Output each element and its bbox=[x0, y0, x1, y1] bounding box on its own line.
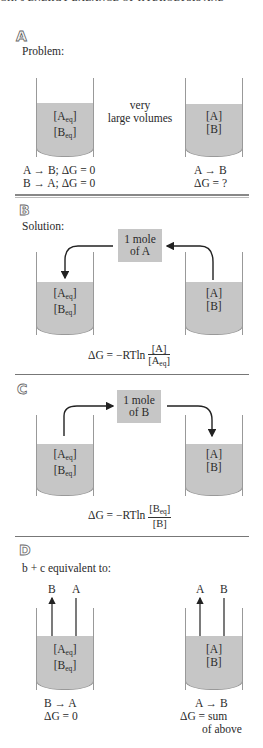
panel-d-right-equations: A → B ΔG = sum of above bbox=[180, 697, 242, 736]
panel-b-formula: ΔG = −RTln [A] [Aeq] bbox=[88, 343, 170, 369]
beaker-nonequilibrium: [A] [B] bbox=[185, 415, 243, 496]
fraction: [A] [Aeq] bbox=[148, 343, 170, 369]
beaker-equilibrium: [Aeq] [Beq] bbox=[36, 252, 94, 335]
beaker-concentrations: [A] [B] bbox=[186, 448, 242, 474]
beaker-equilibrium: [Aeq] [Beq] bbox=[36, 415, 94, 496]
arrow-label-b: B bbox=[48, 583, 56, 596]
arrow-label-a: A bbox=[72, 583, 80, 596]
beaker-concentrations: [Aeq] [Beq] bbox=[37, 643, 93, 675]
arrow-label-b: B bbox=[220, 583, 228, 596]
beaker-equilibrium: [Aeq] [Beq] bbox=[36, 608, 94, 690]
one-mole-of-b-box: 1 mole of B bbox=[117, 390, 161, 423]
panel-d-title: b + c equivalent to: bbox=[22, 562, 111, 574]
panel-c-letter: C bbox=[17, 381, 27, 397]
beaker-nonequilibrium: [A] [B] bbox=[185, 608, 243, 690]
beaker-nonequilibrium: [A] [B] bbox=[185, 252, 243, 335]
panel-d-left-equations: B → A ΔG = 0 bbox=[44, 697, 78, 723]
beaker-concentrations: [Aeq] [Beq] bbox=[37, 448, 93, 480]
beaker-concentrations: [Aeq] [Beq] bbox=[37, 287, 93, 319]
separator bbox=[15, 536, 249, 537]
panel-c-formula: ΔG = −RTln [Beq] [B] bbox=[88, 503, 171, 529]
panel-d-letter: D bbox=[19, 542, 31, 558]
beaker-concentrations: [A] [B] bbox=[186, 287, 242, 313]
separator bbox=[15, 374, 249, 375]
fraction: [Beq] [B] bbox=[148, 503, 171, 529]
beaker-concentrations: [A] [B] bbox=[186, 643, 242, 669]
arrow-label-a: A bbox=[196, 583, 204, 596]
